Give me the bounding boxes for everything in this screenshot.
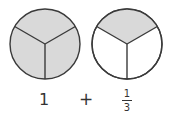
fraction-denominator: 3 [120,102,134,113]
fraction-label: 1 3 [120,88,134,113]
third-circle [92,9,162,79]
whole-circle [10,9,80,79]
plus-sign: + [79,91,93,108]
fraction-numerator: 1 [120,88,134,99]
whole-number-label: 1 [39,92,49,108]
fraction-bar [122,100,132,101]
